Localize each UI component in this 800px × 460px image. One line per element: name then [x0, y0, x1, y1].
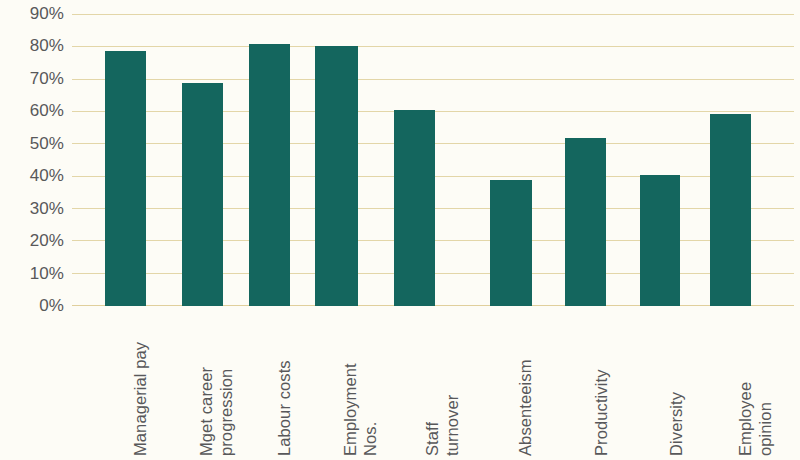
y-tick-label: 90%: [4, 4, 64, 24]
bar-chart: 90% 80% 70% 60% 50% 40% 30% 20% 10% 0%: [0, 0, 800, 460]
x-label-line: Mget career: [197, 367, 215, 456]
gridline: [72, 14, 794, 15]
x-tick-label-employee-opinion: Employee opinion: [717, 382, 795, 456]
x-label-line: progression: [217, 367, 236, 456]
bar-diversity[interactable]: [640, 175, 680, 306]
x-label-line: Labour costs: [275, 360, 293, 456]
bar-labour-costs[interactable]: [249, 44, 290, 306]
y-tick-label: 70%: [4, 69, 64, 89]
x-label-line: opinion: [756, 382, 775, 456]
x-label-line: Nos.: [361, 363, 380, 456]
x-tick-label-managerial-pay: Managerial pay: [112, 342, 151, 456]
y-tick-label: 40%: [4, 166, 64, 186]
y-tick-label: 80%: [4, 36, 64, 56]
x-tick-label-mgmt-career-progression: Mget career progression: [178, 367, 256, 456]
bar-employee-opinion[interactable]: [710, 114, 751, 306]
x-label-line: Diversity: [667, 392, 685, 456]
bar-managerial-pay[interactable]: [105, 51, 146, 306]
x-label-line: turnover: [443, 395, 462, 456]
x-tick-label-diversity: Diversity: [648, 392, 687, 456]
x-label-line: Employee: [736, 382, 754, 456]
x-tick-label-productivity: Productivity: [573, 370, 612, 456]
y-tick-label: 50%: [4, 134, 64, 154]
y-tick-label: 10%: [4, 264, 64, 284]
x-axis: Managerial pay Mget career progression L…: [72, 308, 794, 460]
x-label-line: Employment: [341, 363, 359, 456]
x-tick-label-staff-turnover: Staff turnover: [404, 395, 482, 456]
y-tick-label: 60%: [4, 101, 64, 121]
bar-employment-nos[interactable]: [315, 46, 358, 306]
bar-absenteeism[interactable]: [490, 180, 532, 306]
bar-staff-turnover[interactable]: [394, 110, 435, 306]
gridline: [72, 79, 794, 80]
x-label-line: Productivity: [592, 370, 610, 456]
x-tick-label-employment-nos: Employment Nos.: [322, 363, 400, 456]
x-label-line: Staff: [423, 422, 441, 456]
gridline: [72, 46, 794, 47]
y-tick-label: 30%: [4, 199, 64, 219]
x-tick-label-labour-costs: Labour costs: [256, 360, 295, 456]
plot-area: [72, 14, 794, 306]
x-label-line: Managerial pay: [131, 342, 149, 456]
y-tick-label: 0%: [4, 296, 64, 316]
bar-productivity[interactable]: [565, 138, 606, 306]
y-tick-label: 20%: [4, 231, 64, 251]
x-tick-label-absenteeism: Absenteeism: [497, 360, 536, 456]
x-label-line: Absenteeism: [516, 360, 534, 456]
bar-mgmt-career-progression[interactable]: [182, 83, 223, 306]
